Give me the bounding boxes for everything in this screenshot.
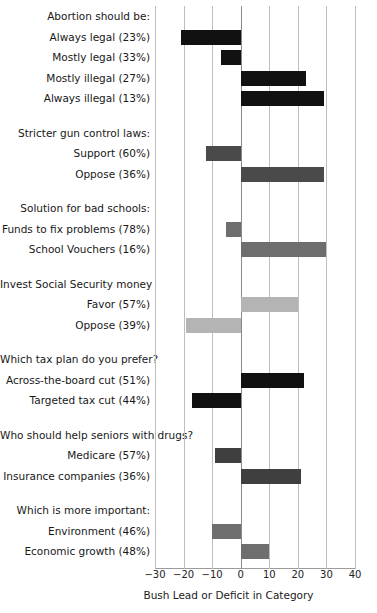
category-label: Insurance companies (36%): [0, 466, 150, 486]
chart-row: [155, 370, 355, 390]
bar: [241, 544, 270, 559]
chart-row: [155, 294, 355, 314]
group-header-label: Who should help seniors with drugs?: [0, 425, 150, 445]
group-header-label: Which tax plan do you prefer?: [0, 349, 150, 369]
group-header-label: Which is more important:: [0, 500, 150, 520]
group-header-label: Stricter gun control laws:: [0, 123, 150, 143]
bar: [221, 50, 241, 65]
category-label: Oppose (39%): [0, 315, 150, 335]
category-label: Environment (46%): [0, 521, 150, 541]
x-tick-label--20: −20: [173, 569, 194, 580]
bar: [241, 71, 307, 86]
bar: [241, 297, 298, 312]
category-label: Across-the-board cut (51%): [0, 370, 150, 390]
category-label: Economic growth (48%): [0, 541, 150, 561]
bar: [215, 448, 241, 463]
bar: [206, 146, 240, 161]
category-label-column: Abortion should be:Always legal (23%)Mos…: [0, 6, 150, 569]
chart-row: [155, 445, 355, 465]
chart-row: [155, 219, 355, 239]
chart-row: [155, 521, 355, 541]
category-label: Oppose (36%): [0, 164, 150, 184]
bar: [192, 393, 241, 408]
chart-row: [155, 88, 355, 108]
chart-row: [155, 27, 355, 47]
x-tick-label-30: 30: [320, 569, 333, 580]
category-label: Always illegal (13%): [0, 88, 150, 108]
group-header-label: Abortion should be:: [0, 6, 150, 26]
chart-row: [155, 164, 355, 184]
chart-row: [155, 390, 355, 410]
category-label: Favor (57%): [0, 294, 150, 314]
x-axis-title-text: Bush Lead or Deficit in Category: [143, 589, 313, 601]
chart-row: [155, 239, 355, 259]
bar: [241, 373, 304, 388]
x-tick-label-0: 0: [238, 569, 244, 580]
x-tick-label-40: 40: [349, 569, 362, 580]
chart-container: Abortion should be:Always legal (23%)Mos…: [0, 0, 377, 613]
bar: [241, 167, 324, 182]
bar: [212, 524, 241, 539]
chart-row: [155, 541, 355, 561]
bar: [241, 91, 324, 106]
x-tick-label--30: −30: [144, 569, 165, 580]
chart-row: [155, 315, 355, 335]
x-tick-label-20: 20: [291, 569, 304, 580]
bar: [181, 30, 241, 45]
plot-area: [155, 6, 355, 569]
category-label: Mostly legal (33%): [0, 47, 150, 67]
category-label: Support (60%): [0, 143, 150, 163]
bar: [241, 242, 327, 257]
chart-row: [155, 466, 355, 486]
x-axis-ticks: −30−20−10010203040: [155, 569, 355, 589]
bar: [241, 469, 301, 484]
chart-row: [155, 143, 355, 163]
group-header-label: Solution for bad schools:: [0, 198, 150, 218]
category-label: School Vouchers (16%): [0, 239, 150, 259]
bars-layer: [155, 6, 355, 569]
category-label: Targeted tax cut (44%): [0, 390, 150, 410]
category-label: Medicare (57%): [0, 445, 150, 465]
chart-row: [155, 47, 355, 67]
chart-row: [155, 68, 355, 88]
x-tick-label-10: 10: [263, 569, 276, 580]
category-label: Funds to fix problems (78%): [0, 219, 150, 239]
category-label: Always legal (23%): [0, 27, 150, 47]
gridline-40: [355, 6, 356, 569]
bar: [226, 222, 240, 237]
category-label: Mostly illegal (27%): [0, 68, 150, 88]
x-tick-label--10: −10: [202, 569, 223, 580]
group-header-label: Invest Social Security money: [0, 274, 150, 294]
bar: [186, 318, 240, 333]
x-axis-title: Bush Lead or Deficit in Category: [0, 589, 377, 601]
